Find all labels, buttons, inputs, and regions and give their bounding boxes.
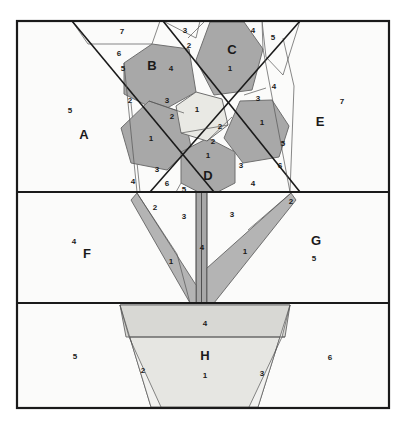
piece-number-label: 3 [260,369,265,378]
piece-number-label: 5 [281,139,286,148]
section-label-f: F [83,246,91,261]
piece-number-label: 2 [218,122,223,131]
piece-number-label: 7 [120,27,125,36]
section-piece-number-f: 4 [72,237,77,246]
section-label-e: E [316,114,325,129]
piece-number-label: 5 [182,185,187,194]
section-piece-number-b: 4 [169,64,174,73]
piece-number-label: 3 [256,94,261,103]
piece-number-label: 2 [153,203,158,212]
piece-number-label: 5 [73,352,78,361]
piece-number-label: 5 [121,64,126,73]
piece-number-label: 3 [239,161,244,170]
piece-number-label: 5 [271,33,276,42]
piece-number-label: 3 [165,96,170,105]
piece-number-label: 4 [251,179,256,188]
piece-number-label: 6 [328,353,333,362]
piece-number-label: 4 [251,26,256,35]
piece-number-label: 6 [117,49,122,58]
pattern-diagram: A B C D E F G H 765324543232112215634653… [0,0,403,427]
section-piece-number-h: 1 [203,371,208,380]
section-label-b: B [147,58,156,73]
section-piece-number-d: 1 [206,151,211,160]
section-label-a: A [79,127,89,142]
pattern-canvas: A B C D E F G H 765324543232112215634653… [0,0,403,427]
piece-number-label: 3 [183,26,188,35]
section-label-g: G [311,233,321,248]
piece-number-label: 4 [203,319,208,328]
section-piece-number-c: 1 [228,64,233,73]
section-piece-number-a: 5 [68,106,73,115]
piece-number-label: 4 [272,82,277,91]
piece-number-label: 4 [131,177,136,186]
piece-number-label: 3 [182,212,187,221]
section-piece-number-e: 7 [340,97,345,106]
piece-number-label: 4 [200,243,205,252]
section-e-shape [290,21,389,192]
piece-number-label: 6 [165,179,170,188]
piece-number-label: 2 [187,41,192,50]
section-label-d: D [203,168,212,183]
piece-number-label: 1 [169,257,174,266]
piece-number-label: 1 [195,105,200,114]
piece-number-label: 2 [128,96,133,105]
piece-number-label: 2 [289,197,294,206]
section-piece-number-g: 5 [312,254,317,263]
section-label-c: C [227,42,237,57]
wedge-7-top-left [72,21,160,44]
section-e-group [283,21,389,192]
piece-number-label: 1 [260,118,265,127]
piece-number-label: 2 [141,366,146,375]
piece-number-label: 6 [278,161,283,170]
piece-number-label: 1 [243,247,248,256]
piece-number-label: 2 [211,137,216,146]
section-label-h: H [200,348,209,363]
piece-number-label: 2 [170,112,175,121]
piece-number-label: 3 [230,210,235,219]
piece-number-label: 3 [155,165,160,174]
piece-number-label: 1 [149,134,154,143]
